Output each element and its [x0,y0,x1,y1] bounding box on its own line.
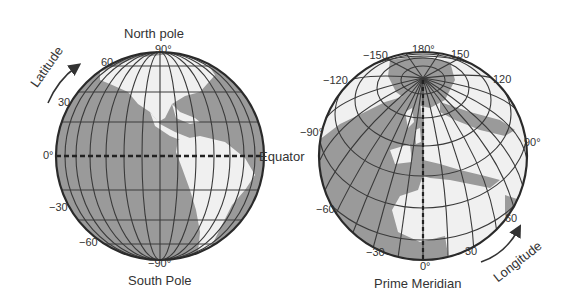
tick-lon-60: 60 [505,213,517,224]
tick-lat-90: 90° [155,44,172,55]
tick-lon-minus-90: −90° [300,127,323,138]
south-pole-label: South Pole [128,274,192,287]
tick-lon-30: 30 [465,246,477,257]
tick-lat-minus-30: −30 [49,202,68,213]
tick-lat-60: 60 [101,57,113,68]
tick-lon-90: 90° [524,137,541,148]
tick-lon-minus-120: −120 [323,75,348,86]
tick-lat-minus-90: −90° [148,258,171,269]
prime-meridian-label: Prime Meridian [374,277,461,290]
tick-lon-0: 0° [420,261,431,272]
left-globe [50,52,270,260]
tick-lat-minus-60: −60 [79,237,98,248]
tick-lon-minus-30: −30 [366,247,385,258]
tick-lon-120: 120 [493,74,511,85]
north-pole-label: North pole [124,27,184,40]
tick-lon-180: 180° [412,44,435,55]
tick-lon-150: 150 [451,49,469,60]
tick-lat-0: 0° [43,150,54,161]
tick-lon-minus-60: −60 [316,204,335,215]
tick-lat-30: 30 [58,97,70,108]
equator-label: Equator [259,150,305,163]
tick-lon-minus-150: −150 [363,50,388,61]
